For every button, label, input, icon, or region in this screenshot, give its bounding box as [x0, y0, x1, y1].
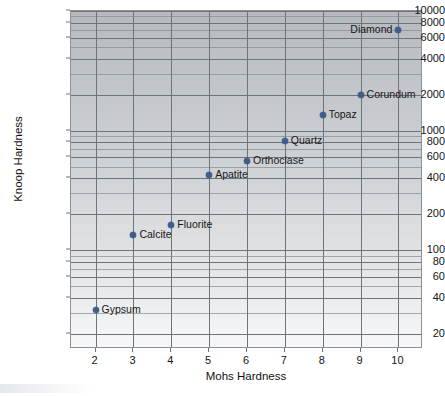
gridline-horizontal [71, 38, 421, 39]
x-tick-mark [284, 348, 285, 352]
y-tick-mark [66, 249, 70, 250]
data-point [168, 222, 174, 228]
data-point [320, 112, 326, 118]
x-tick-mark [170, 348, 171, 352]
mohs-knoop-hardness-chart: GypsumCalciteFluoriteApatiteOrthoclaseQu… [0, 0, 445, 396]
x-tick-mark [95, 348, 96, 352]
y-tick-label: 6000 [383, 31, 445, 42]
gridline-horizontal-minor [71, 136, 421, 137]
y-tick-mark [66, 36, 70, 37]
gridline-horizontal [71, 11, 421, 12]
data-point [244, 158, 250, 164]
y-tick-label: 8000 [383, 16, 445, 27]
page-edge-artifact [0, 384, 92, 393]
x-tick-mark [246, 348, 247, 352]
gridline-horizontal-minor [71, 256, 421, 257]
gridline-horizontal [71, 214, 421, 215]
data-point-label: Topaz [329, 109, 357, 120]
data-point-label: Gypsum [102, 304, 141, 315]
data-point [358, 92, 364, 98]
gridline-horizontal [71, 131, 421, 132]
gridline-horizontal-minor [71, 149, 421, 150]
gridline-vertical [133, 11, 134, 347]
y-tick-mark [66, 57, 70, 58]
data-point [206, 172, 212, 178]
data-point [130, 232, 136, 238]
x-tick-label: 4 [150, 354, 190, 366]
data-point-label: Fluorite [177, 219, 212, 230]
y-tick-label: 200 [383, 208, 445, 219]
plot-area: GypsumCalciteFluoriteApatiteOrthoclaseQu… [70, 10, 422, 348]
gridline-vertical [323, 11, 324, 347]
y-tick-mark [66, 93, 70, 94]
data-point [93, 307, 99, 313]
gridline-horizontal [71, 277, 421, 278]
y-tick-label: 10000 [383, 5, 445, 16]
data-point-label: Orthoclase [253, 155, 304, 166]
y-tick-label: 400 [383, 172, 445, 183]
gridline-horizontal [71, 59, 421, 60]
gridline-horizontal-minor [71, 16, 421, 17]
gridline-horizontal [71, 298, 421, 299]
gridline-horizontal-minor [71, 269, 421, 270]
gridline-horizontal [71, 250, 421, 251]
gridline-horizontal [71, 334, 421, 335]
y-tick-mark [66, 177, 70, 178]
y-tick-mark [66, 260, 70, 261]
y-tick-label: 80 [383, 255, 445, 266]
y-tick-mark [66, 333, 70, 334]
gridline-horizontal-minor [71, 47, 421, 48]
gridline-horizontal-minor [71, 74, 421, 75]
gridline-vertical [171, 11, 172, 347]
gridline-horizontal-minor [71, 286, 421, 287]
y-tick-mark [66, 129, 70, 130]
gridline-vertical [96, 11, 97, 347]
x-tick-mark [208, 348, 209, 352]
gridline-horizontal [71, 262, 421, 263]
y-tick-mark [66, 156, 70, 157]
x-tick-label: 10 [377, 354, 417, 366]
y-tick-label: 800 [383, 136, 445, 147]
gridline-vertical [285, 11, 286, 347]
y-tick-mark [66, 10, 70, 11]
x-tick-label: 6 [226, 354, 266, 366]
x-axis-title: Mohs Hardness [70, 370, 422, 382]
x-tick-mark [397, 348, 398, 352]
y-tick-label: 100 [383, 244, 445, 255]
x-tick-label: 2 [75, 354, 115, 366]
y-tick-label: 600 [383, 151, 445, 162]
gridline-horizontal-minor [71, 193, 421, 194]
y-tick-label: 1000 [383, 124, 445, 135]
x-tick-label: 3 [112, 354, 152, 366]
gridline-vertical [361, 11, 362, 347]
y-tick-label: 60 [383, 270, 445, 281]
y-tick-mark [66, 141, 70, 142]
data-point-label: Calcite [139, 229, 171, 240]
data-point [282, 138, 288, 144]
y-tick-mark [66, 213, 70, 214]
data-point-label: Quartz [291, 135, 323, 146]
x-tick-label: 8 [302, 354, 342, 366]
gridline-horizontal [71, 142, 421, 143]
y-tick-mark [66, 275, 70, 276]
x-tick-mark [360, 348, 361, 352]
gridline-vertical [209, 11, 210, 347]
x-tick-label: 9 [340, 354, 380, 366]
y-tick-label: 4000 [383, 52, 445, 63]
x-tick-label: 7 [264, 354, 304, 366]
y-tick-label: 2000 [383, 88, 445, 99]
data-point-label: Apatite [215, 169, 248, 180]
x-tick-mark [132, 348, 133, 352]
y-tick-label: 40 [383, 292, 445, 303]
x-tick-mark [322, 348, 323, 352]
y-axis-title: Knoop Hardness [12, 79, 24, 239]
x-tick-label: 5 [188, 354, 228, 366]
y-tick-mark [66, 21, 70, 22]
y-tick-mark [66, 297, 70, 298]
y-tick-label: 20 [383, 328, 445, 339]
